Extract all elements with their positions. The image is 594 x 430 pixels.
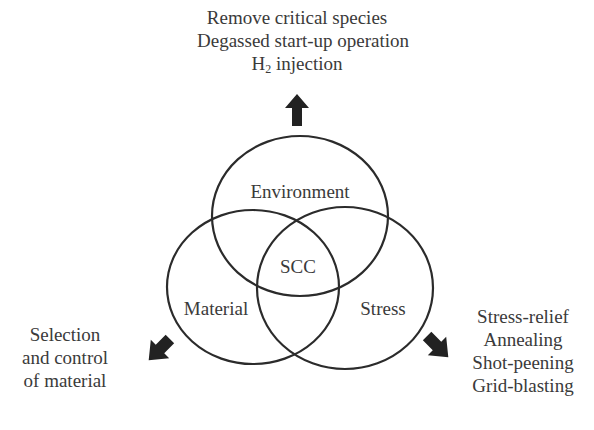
stress-actions: Stress-relief Annealing Shot-peening Gri… <box>458 305 588 397</box>
arrow-up-icon <box>285 94 309 126</box>
environment-action-3: H2 injection <box>197 52 397 75</box>
stress-label: Stress <box>348 298 418 320</box>
arrow-down-left-icon <box>139 330 179 370</box>
material-actions: Selection and control of material <box>10 323 120 392</box>
environment-actions: Remove critical species Degassed start-u… <box>197 6 397 75</box>
stress-action-3: Shot-peening <box>458 351 588 374</box>
stress-circle <box>257 207 433 369</box>
material-circle <box>167 210 339 364</box>
material-action-3: of material <box>10 369 120 392</box>
material-label: Material <box>176 298 256 320</box>
material-action-1: Selection <box>10 323 120 346</box>
arrow-down-right-icon <box>418 327 458 367</box>
material-action-2: and control <box>10 346 120 369</box>
environment-action-1: Remove critical species <box>197 6 397 29</box>
environment-label: Environment <box>242 181 358 203</box>
stress-action-1: Stress-relief <box>458 305 588 328</box>
stress-action-2: Annealing <box>458 328 588 351</box>
environment-action-2: Degassed start-up operation <box>197 29 397 52</box>
scc-venn-diagram: Remove critical species Degassed start-u… <box>0 0 594 430</box>
scc-label: SCC <box>268 256 328 278</box>
stress-action-4: Grid-blasting <box>458 374 588 397</box>
